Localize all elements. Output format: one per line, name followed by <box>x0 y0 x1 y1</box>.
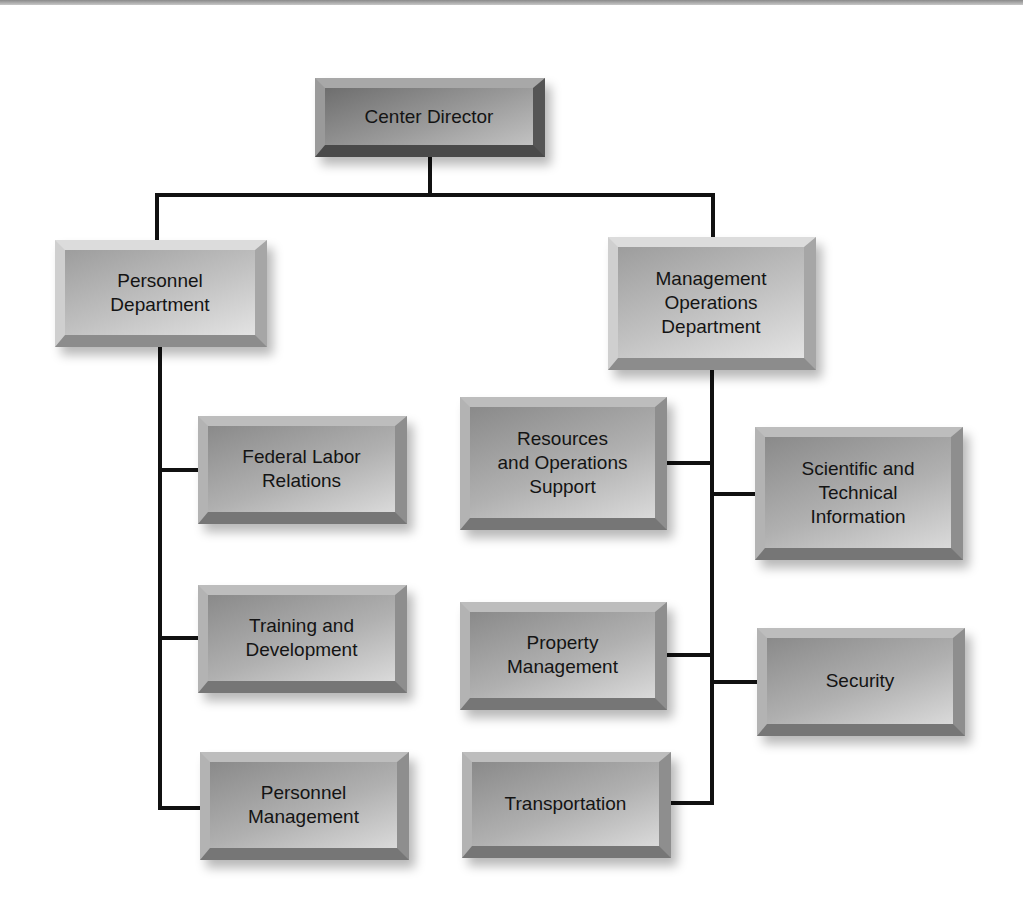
node-label: Property Management <box>507 631 618 679</box>
node-resources-and-operations-support: Resources and Operations Support <box>460 397 667 530</box>
node-label: Training and Development <box>246 614 358 662</box>
node-label: Federal Labor Relations <box>242 445 360 493</box>
connector-security <box>712 680 759 684</box>
node-security: Security <box>757 628 965 736</box>
node-label: Transportation <box>505 792 627 816</box>
node-label: Center Director <box>365 105 494 129</box>
connector-personnel-vertical <box>158 345 162 810</box>
connector-top-horizontal <box>155 193 715 197</box>
node-training-and-development: Training and Development <box>198 585 407 693</box>
node-transportation: Transportation <box>462 752 671 858</box>
top-edge-bar <box>0 0 1023 5</box>
connector-mgmt-ops-drop <box>711 193 715 239</box>
node-label: Personnel Department <box>110 269 209 317</box>
node-label: Management Operations Department <box>656 267 767 339</box>
node-scientific-and-technical-information: Scientific and Technical Information <box>755 427 963 560</box>
node-property-management: Property Management <box>460 602 667 710</box>
connector-transportation <box>669 801 714 805</box>
node-label: Personnel Management <box>248 781 359 829</box>
node-personnel-management: Personnel Management <box>200 752 409 860</box>
connector-personnel-dept-drop <box>155 193 159 243</box>
connector-director-down <box>428 155 432 197</box>
connector-sci-tech <box>712 492 757 496</box>
connector-resources-ops <box>665 461 712 465</box>
node-label: Security <box>826 669 895 693</box>
connector-personnel-mgmt <box>158 806 202 810</box>
node-center-director: Center Director <box>315 78 545 157</box>
connector-federal-labor <box>158 468 200 472</box>
node-federal-labor-relations: Federal Labor Relations <box>198 416 407 524</box>
node-label: Scientific and Technical Information <box>801 457 914 529</box>
node-management-operations-department: Management Operations Department <box>608 237 816 370</box>
connector-training <box>158 636 200 640</box>
node-label: Resources and Operations Support <box>498 427 628 499</box>
connector-property-mgmt <box>665 653 712 657</box>
connector-mgmt-ops-vertical <box>710 368 714 805</box>
node-personnel-department: Personnel Department <box>55 240 267 347</box>
